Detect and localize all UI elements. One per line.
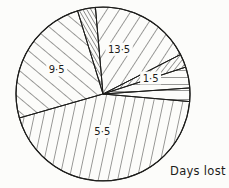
figure: 13·51·55·59·5 Days lost xyxy=(0,0,229,188)
segment-5-5-label: 5·5 xyxy=(94,126,110,137)
segment-13-5-label: 13·5 xyxy=(108,44,130,55)
pie-wedges xyxy=(16,7,190,181)
pie-chart: 13·51·55·59·5 xyxy=(0,0,229,188)
segment-1-5-label: 1·5 xyxy=(143,73,159,84)
segment-9-5-label: 9·5 xyxy=(49,64,65,75)
chart-caption: Days lost xyxy=(170,164,226,178)
